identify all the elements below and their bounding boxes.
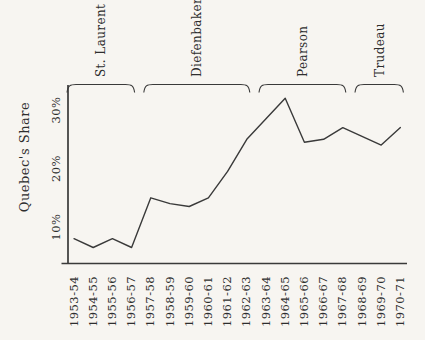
y-tick-label: 30%: [49, 97, 63, 124]
x-tick-label: 1953-54: [67, 276, 81, 327]
era-brace: [355, 85, 403, 93]
era-brace: [67, 85, 135, 93]
y-tick-label: 10%: [49, 214, 63, 241]
x-tick-label: 1965-66: [297, 276, 311, 327]
x-tick-label: 1957-58: [143, 276, 157, 327]
era-label: Trudeau: [373, 23, 387, 77]
chart-canvas: Quebec's Share St. LaurentDiefenbakerPea…: [0, 0, 425, 340]
y-axis-title: Quebec's Share: [17, 102, 32, 212]
y-tick-labels: 10%20%30%: [49, 97, 63, 241]
era-brace: [144, 85, 250, 93]
x-tick-label: 1962-63: [239, 276, 253, 327]
x-tick-label: 1960-61: [201, 276, 215, 327]
x-tick-label: 1958-59: [163, 276, 177, 327]
x-tick-label: 1969-70: [374, 276, 388, 327]
x-tick-label: 1961-62: [220, 276, 234, 327]
quebec-share-chart: Quebec's Share St. LaurentDiefenbakerPea…: [0, 0, 425, 340]
x-tick-label: 1959-60: [182, 276, 196, 327]
x-tick-label: 1963-64: [259, 276, 273, 327]
era-label: Pearson: [296, 26, 310, 77]
era-label: St. Laurent: [94, 4, 108, 77]
era-brackets: St. LaurentDiefenbakerPearsonTrudeau: [67, 0, 403, 93]
x-tick-label: 1954-55: [86, 276, 100, 327]
x-tick-labels: 1953-541954-551955-561956-571957-581958-…: [67, 276, 407, 327]
y-tick-label: 20%: [49, 155, 63, 182]
x-tick-label: 1970-71: [393, 276, 407, 327]
axes: [62, 85, 408, 264]
x-tick-label: 1967-68: [335, 276, 349, 327]
quebec-share-line: [74, 98, 400, 247]
x-tick-label: 1966-67: [316, 276, 330, 327]
era-label: Diefenbaker: [190, 0, 204, 77]
x-tick-label: 1964-65: [278, 276, 292, 327]
x-tick-label: 1968-69: [355, 276, 369, 327]
x-tick-label: 1956-57: [124, 276, 138, 327]
era-brace: [259, 85, 346, 93]
x-tick-label: 1955-56: [105, 276, 119, 327]
